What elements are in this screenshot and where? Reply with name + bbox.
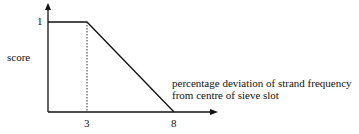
x-tick-8: 8 [171,117,177,129]
y-axis-arrow-icon [45,3,51,10]
x-axis-label-line2: from centre of sieve slot [172,89,279,101]
x-axis-label-line1: percentage deviation of strand frequency [172,77,352,89]
chart-plot [0,0,359,134]
x-tick-3: 3 [84,117,90,129]
y-tick-1: 1 [37,15,43,27]
score-line [48,22,174,112]
x-axis-arrow-icon [210,109,218,115]
y-axis-label: score [7,51,30,63]
